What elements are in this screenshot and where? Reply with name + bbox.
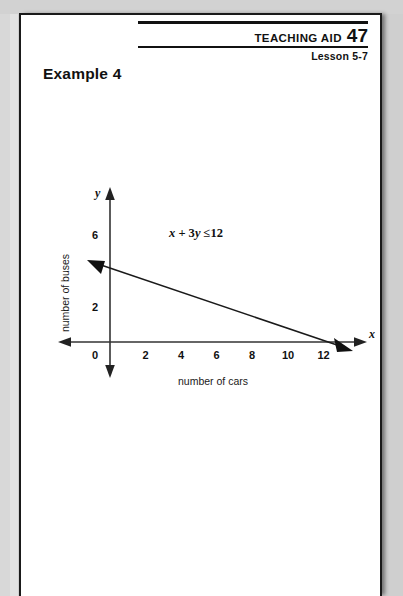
- x-tick-label-0: 0: [92, 349, 98, 361]
- x-tick-label-2: 2: [142, 349, 148, 361]
- x-tick-label-6: 6: [213, 349, 219, 361]
- inequality-annotation: x + 3y ≤12: [168, 226, 223, 240]
- x-tick-label-10: 10: [282, 349, 294, 361]
- graph-figure: y x 0 2 4 6 8 10 12 2 6 x + 3y ≤12 n: [31, 175, 376, 395]
- y-tick-label-6: 6: [92, 229, 98, 241]
- x-axis-caption: number of cars: [178, 375, 248, 387]
- y-axis-down-arrow: [105, 365, 115, 378]
- x-tick-label-12: 12: [317, 349, 329, 361]
- x-axis-variable-label: x: [368, 327, 375, 341]
- y-tick-label-2: 2: [92, 301, 98, 313]
- boundary-left-arrow: [87, 260, 105, 274]
- lesson-label: Lesson 5-7: [138, 50, 368, 62]
- ineq-x-var: x: [168, 226, 175, 240]
- teaching-aid-number: 47: [347, 26, 368, 45]
- y-axis-up-arrow: [105, 187, 115, 200]
- page-title: Example 4: [43, 65, 121, 83]
- header-top-rule: [138, 21, 368, 24]
- x-tick-label-4: 4: [178, 349, 185, 361]
- coordinate-graph: y x 0 2 4 6 8 10 12 2 6 x + 3y ≤12 n: [31, 175, 376, 395]
- worksheet-page: TEACHING AID 47 Lesson 5-7 Example 4 y x: [19, 13, 382, 596]
- x-axis-left-arrow: [58, 337, 71, 347]
- y-axis-variable-label: y: [93, 186, 101, 200]
- y-axis-caption: number of buses: [59, 254, 71, 332]
- inequality-boundary-line: [101, 265, 337, 345]
- x-axis-right-arrow: [354, 337, 367, 347]
- teaching-aid-label: TEACHING AID: [254, 33, 341, 45]
- x-tick-label-8: 8: [249, 349, 255, 361]
- header-block: TEACHING AID 47 Lesson 5-7: [138, 21, 368, 62]
- header-bottom-rule: [138, 46, 368, 48]
- boundary-right-arrow: [334, 338, 353, 352]
- teaching-aid-line: TEACHING AID 47: [138, 25, 368, 44]
